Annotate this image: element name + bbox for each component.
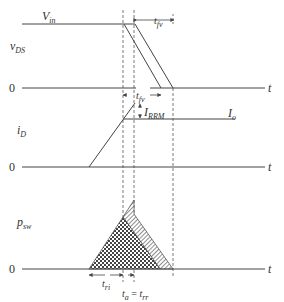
io-label: Io [227,106,236,122]
irrm-label: IRRM [143,105,166,121]
vin-label: Vin [42,9,56,25]
vds-axis-label: t [268,81,272,95]
tri-label: tri [102,278,110,292]
id-zero-label: 0 [9,160,15,174]
vds-label: vDS [10,39,25,55]
tfv-top-label: tfv [154,15,163,29]
psw-zero-label: 0 [9,262,15,276]
id-label: iD [17,123,26,139]
id-axis-label: t [268,160,272,174]
switching-waveform-diagram: Vin vDS 0 t tfv tfv iD 0 t IRRM [0,0,284,302]
tfv-bottom-label: tfv [136,90,145,104]
vds-zero-label: 0 [9,81,15,95]
panel-psw: psw 0 t tri ta = trr [9,200,272,302]
ta-trr-label: ta = trr [122,288,149,302]
psw-label: psw [16,215,32,231]
panel-id: iD 0 t IRRM Io [9,103,272,174]
psw-axis-label: t [268,262,272,276]
panel-vds: Vin vDS 0 t tfv tfv [9,9,272,104]
